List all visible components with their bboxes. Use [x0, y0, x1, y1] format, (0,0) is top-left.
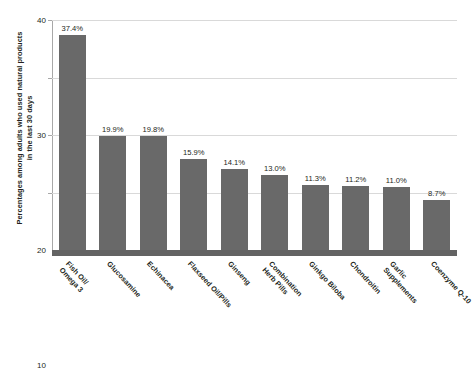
bar[interactable]: [59, 35, 86, 250]
x-axis-tick-label: Echinacea: [145, 260, 176, 292]
bar-slot: 11.2%: [342, 20, 369, 250]
bar[interactable]: [261, 175, 288, 250]
bar-slot: 15.9%: [180, 20, 207, 250]
x-axis-tick-label: Coenzyme Q-10: [428, 260, 472, 306]
x-label-slot: Ginkgo Biloba: [295, 258, 336, 337]
plot-area: 10203040 37.4%19.9%19.8%15.9%14.1%13.0%1…: [52, 20, 457, 256]
x-label-slot: Flaxseed Oil/Pills: [174, 258, 215, 337]
x-label-slot: Fish Oil/Omega 3: [52, 258, 93, 337]
bar-value-label: 11.3%: [305, 174, 326, 183]
x-label-slot: GarlicSupplements: [376, 258, 417, 337]
bar-value-label: 14.1%: [223, 158, 245, 167]
x-label-slot: Echinacea: [133, 258, 174, 337]
bar-value-label: 15.9%: [183, 148, 205, 157]
bars-group: 37.4%19.9%19.8%15.9%14.1%13.0%11.3%11.2%…: [52, 20, 457, 250]
x-label-slot: Coenzyme Q-10: [417, 258, 458, 337]
bar-slot: 37.4%: [59, 20, 86, 250]
bar-value-label: 11.0%: [386, 176, 407, 185]
x-label-slot: Glucosamine: [93, 258, 134, 337]
x-axis-labels: Fish Oil/Omega 3GlucosamineEchinaceaFlax…: [52, 258, 457, 337]
x-label-slot: Ginseng: [214, 258, 255, 337]
bar-value-label: 37.4%: [61, 24, 83, 33]
bar-slot: 11.0%: [383, 20, 410, 250]
bar-slot: 19.8%: [140, 20, 167, 250]
bar[interactable]: [221, 169, 248, 250]
x-axis-tick-label-line: Echinacea: [145, 260, 176, 292]
bar-value-label: 19.8%: [142, 125, 164, 134]
bar-slot: 14.1%: [221, 20, 248, 250]
bar-slot: 13.0%: [261, 20, 288, 250]
x-axis-tick-label-line: Coenzyme Q-10: [428, 260, 472, 306]
bar[interactable]: [99, 136, 126, 250]
y-tick-label-30: 30: [37, 131, 46, 140]
x-axis-tick-label: Fish Oil/Omega 3: [58, 260, 92, 294]
bar-value-label: 8.7%: [428, 189, 445, 198]
y-axis-title-line-1: Percentages among adults who used natura…: [15, 31, 25, 224]
bar[interactable]: [140, 136, 167, 250]
y-axis-title-line-2: in the last 30 days: [25, 31, 35, 224]
bar-slot: 8.7%: [423, 20, 450, 250]
bar-value-label: 11.2%: [345, 175, 366, 184]
bar[interactable]: [423, 200, 450, 250]
x-axis-baseline: [52, 250, 457, 256]
bar[interactable]: [342, 186, 369, 250]
x-label-slot: CombinationHerb Pills: [255, 258, 296, 337]
x-axis-tick-label-line: Ginseng: [226, 260, 252, 287]
x-label-slot: Chondroitin: [336, 258, 377, 337]
bar-slot: 11.3%: [302, 20, 329, 250]
x-axis-tick-label: Ginseng: [226, 260, 252, 287]
bar-slot: 19.9%: [99, 20, 126, 250]
y-tick-label-40: 40: [37, 16, 46, 25]
y-tick-label-20: 20: [37, 246, 46, 255]
bar[interactable]: [180, 159, 207, 250]
y-tick-label-10: 10: [37, 361, 46, 370]
y-axis-title: Percentages among adults who used natura…: [10, 20, 40, 235]
bar[interactable]: [302, 185, 329, 250]
bar-value-label: 19.9%: [102, 125, 124, 134]
bar-value-label: 13.0%: [264, 164, 286, 173]
bar[interactable]: [383, 187, 410, 250]
